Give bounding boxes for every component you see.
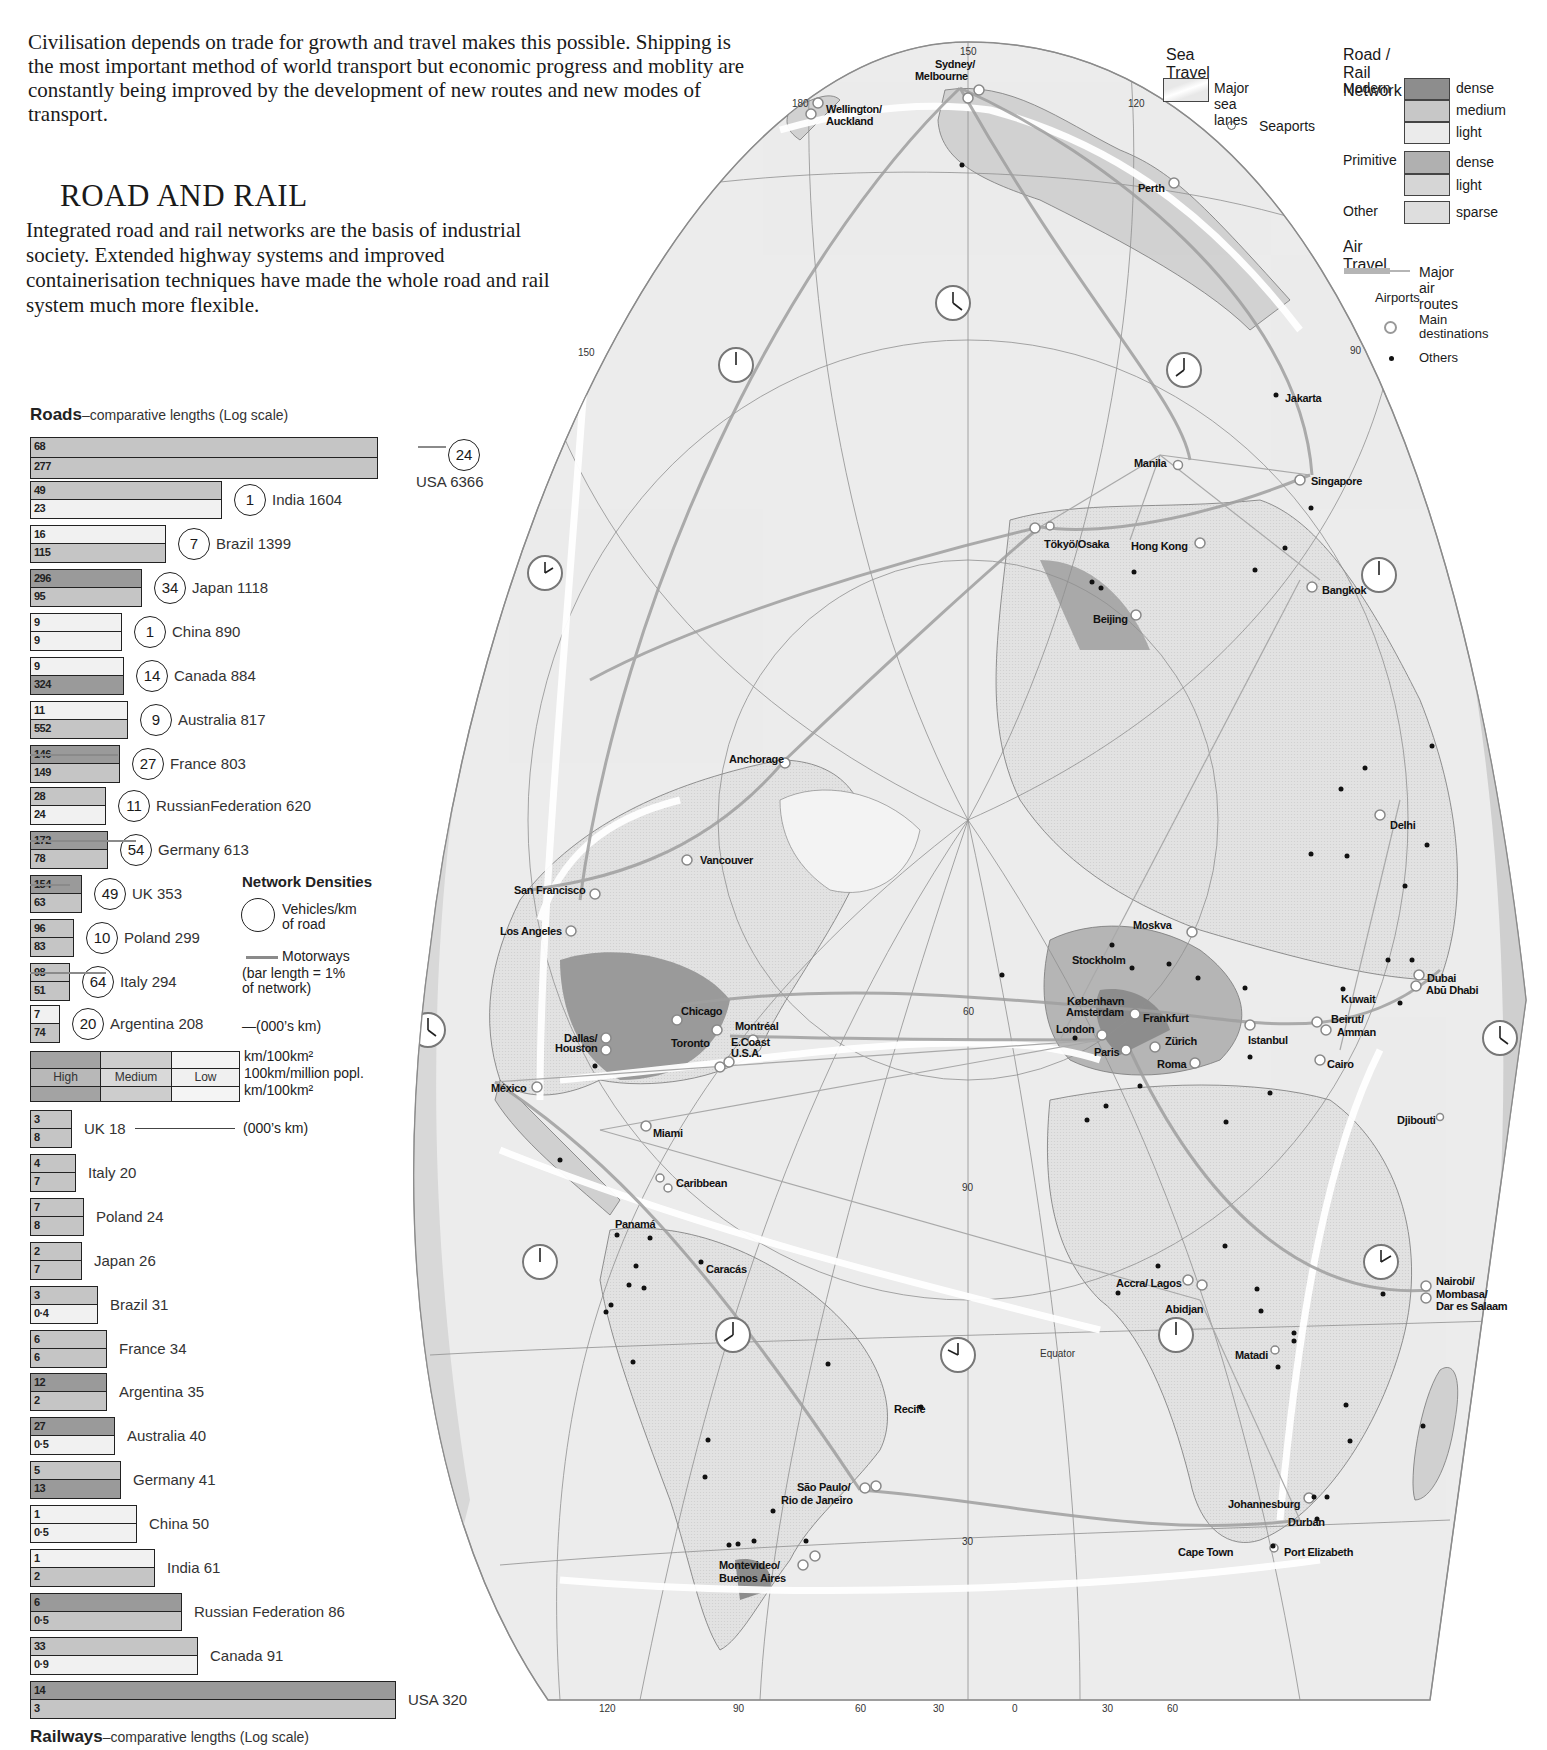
- vehicles-per-km-circle: 49: [94, 878, 126, 910]
- rail-bar-india: 12: [30, 1549, 155, 1587]
- rail-density-area: 2: [31, 1243, 81, 1261]
- rail-bar-canada: 330·9: [30, 1637, 198, 1675]
- road-bar-brazil: 16115: [30, 525, 166, 563]
- city-label: E.Coast: [731, 1036, 770, 1048]
- density-low-label: Low: [172, 1069, 239, 1086]
- city-label: London: [1056, 1023, 1095, 1035]
- primitive-dense-label: dense: [1456, 154, 1494, 170]
- city-label: México: [491, 1082, 527, 1094]
- road-density-popl: 277: [31, 458, 377, 478]
- city-label: Recife: [894, 1403, 925, 1415]
- rail-density-popl: 6: [31, 1349, 106, 1367]
- city-label: Amsterdam: [1066, 1006, 1124, 1018]
- road-density-popl: 324: [31, 676, 123, 694]
- city-label: Beijing: [1093, 613, 1128, 625]
- rail-country-label: China 50: [149, 1515, 209, 1532]
- road-density-popl: 51: [31, 982, 69, 1000]
- city-label: Abidjan: [1165, 1303, 1203, 1315]
- rail-country-label: India 61: [167, 1559, 220, 1576]
- motorway-bar: [30, 754, 118, 756]
- city-label: Mombasa/: [1436, 1288, 1487, 1300]
- city-label: Port Elizabeth: [1284, 1546, 1353, 1558]
- city-label: Frankfurt: [1143, 1012, 1189, 1024]
- city-label: Cairo: [1327, 1058, 1354, 1070]
- vehicles-per-km-circle: 64: [82, 966, 114, 998]
- rail-density-popl: 7: [31, 1261, 81, 1279]
- section-title: ROAD AND RAIL: [60, 178, 308, 214]
- other-label: Other: [1343, 203, 1378, 219]
- rail-density-popl: 13: [31, 1480, 120, 1498]
- vehicles-per-km-circle: 1: [134, 616, 166, 648]
- city-label: Stockholm: [1072, 954, 1126, 966]
- rail-country-label: Poland 24: [96, 1208, 164, 1225]
- rail-density-area: 33: [31, 1638, 197, 1656]
- road-density-popl: 63: [31, 894, 81, 912]
- rail-density-area: 14: [31, 1682, 395, 1700]
- city-label: Montevideo/: [719, 1559, 780, 1571]
- rail-bar-poland: 78: [30, 1198, 84, 1236]
- city-label: Djibouti: [1397, 1114, 1436, 1126]
- graticule-label: 60: [855, 1703, 866, 1714]
- city-label: Nairobi/: [1436, 1275, 1475, 1287]
- rail-country-label: Russian Federation 86: [194, 1603, 345, 1620]
- road-density-area: 28: [31, 788, 105, 806]
- rail-density-popl: 8: [31, 1217, 83, 1235]
- city-label: U.S.A.: [731, 1047, 762, 1059]
- road-country-label: Germany 613: [158, 841, 249, 858]
- road-density-popl: 95: [31, 588, 141, 606]
- graticule-label: 0: [1012, 1703, 1018, 1714]
- rail-title-sub: –comparative lengths (Log scale): [103, 1729, 309, 1745]
- graticule-label: 60: [963, 1006, 974, 1017]
- rail-bar-germany: 513: [30, 1461, 121, 1499]
- primitive-light-swatch: [1404, 174, 1450, 196]
- main-destinations-label: Main destinations: [1419, 313, 1488, 341]
- sea-travel-title: Sea Travel: [1166, 46, 1210, 82]
- rail-bar-australia: 270·5: [30, 1417, 115, 1455]
- graticule-label: 120: [1128, 98, 1145, 109]
- vehicles-per-km-circle: 11: [118, 790, 150, 822]
- road-country-label: France 803: [170, 755, 246, 772]
- graticule-label: 30: [933, 1703, 944, 1714]
- city-label: Miami: [653, 1127, 683, 1139]
- vehicles-per-km-circle: 27: [132, 748, 164, 780]
- seaport-icon: [1227, 121, 1236, 130]
- city-label: Toronto: [671, 1037, 710, 1049]
- city-label: Montréal: [735, 1020, 778, 1032]
- equator-label: Equator: [1040, 1348, 1075, 1359]
- road-bar-germany: 17278: [30, 831, 108, 869]
- primitive-light-label: light: [1456, 177, 1482, 193]
- rail-country-label: Italy 20: [88, 1164, 136, 1181]
- city-label: São Paulo/: [797, 1481, 850, 1493]
- road-density-popl: 149: [31, 764, 119, 782]
- city-label: Tökyö/Osaka: [1044, 538, 1109, 550]
- road-density-area: 68: [31, 438, 377, 458]
- road-bar-usa: 68277: [30, 437, 378, 479]
- city-label: Panamá: [615, 1218, 655, 1230]
- roads-title-sub: –comparative lengths (Log scale): [82, 407, 288, 423]
- city-label: Durban: [1288, 1516, 1325, 1528]
- vehicles-per-km-circle: 9: [140, 704, 172, 736]
- road-bar-italy: 9851: [30, 963, 70, 1001]
- road-bar-france: 146149: [30, 745, 120, 783]
- city-label: Delhi: [1390, 819, 1415, 831]
- road-density-popl: 23: [31, 500, 221, 518]
- motorway-bar: [418, 446, 446, 448]
- rail-density-area: 1: [31, 1506, 136, 1524]
- city-label: Zürich: [1165, 1035, 1197, 1047]
- road-density-area: 7: [31, 1006, 59, 1024]
- main-destination-icon: [1384, 321, 1397, 334]
- city-label: Manila: [1134, 457, 1166, 469]
- graticule-label: 90: [962, 1182, 973, 1193]
- city-label: Anchorage: [729, 753, 784, 765]
- uk-rail-leader-line: [135, 1128, 235, 1129]
- city-label: Singapore: [1311, 475, 1362, 487]
- air-routes-label: Major air routes: [1419, 264, 1458, 312]
- city-label: Perth: [1138, 182, 1165, 194]
- rail-title-bold: Railways: [30, 1727, 103, 1746]
- rail-bar-argentina: 122: [30, 1373, 107, 1411]
- road-bar-canada: 9324: [30, 657, 124, 695]
- city-label: Accra/ Lagos: [1116, 1277, 1181, 1289]
- rail-density-area: 6: [31, 1594, 181, 1612]
- vehicles-legend: Vehicles/km of road: [282, 902, 357, 932]
- road-country-label: RussianFederation 620: [156, 797, 311, 814]
